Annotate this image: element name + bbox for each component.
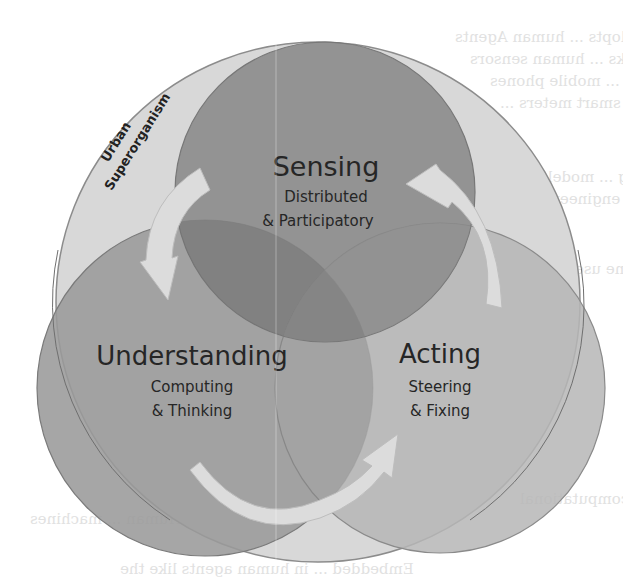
acting-label-group: Acting Steering & Fixing: [399, 339, 481, 420]
sensing-line1: Distributed: [284, 188, 367, 206]
venn-diagram: Urban Superorganism Sensing Distributed …: [0, 0, 623, 582]
acting-line2: & Fixing: [410, 402, 470, 420]
understanding-line2: & Thinking: [152, 402, 233, 420]
acting-line1: Steering: [408, 378, 471, 396]
sensing-line2: & Participatory: [262, 212, 374, 230]
understanding-title: Understanding: [96, 341, 288, 371]
sensing-title: Sensing: [273, 151, 380, 182]
acting-title: Acting: [399, 339, 481, 369]
understanding-line1: Computing: [151, 378, 233, 396]
diagram-canvas: ICT Adopts ... human Agents Sense networ…: [0, 0, 623, 582]
